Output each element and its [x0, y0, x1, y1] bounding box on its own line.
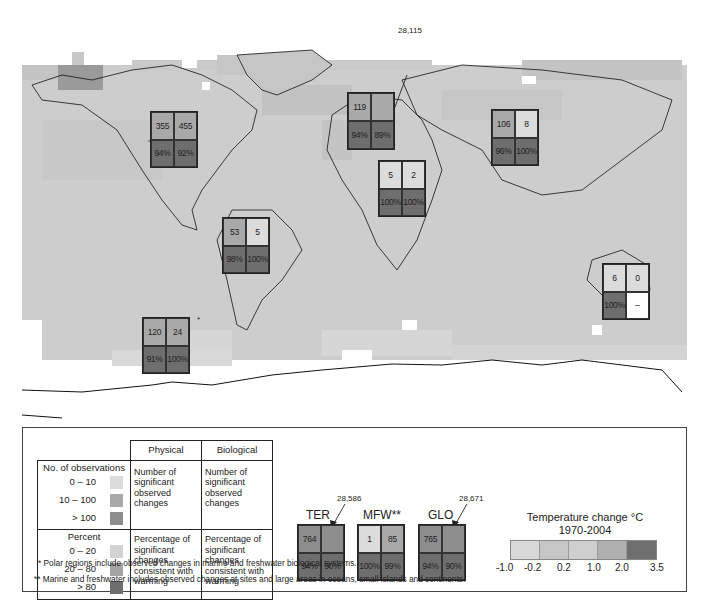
summary-box-glo: 765 94% 90%	[418, 524, 466, 581]
physical-count: 765	[419, 525, 442, 553]
colorbar-bin-4	[627, 541, 656, 559]
tick-4: 2.0	[615, 562, 629, 573]
glo-callout: 28,671	[459, 494, 483, 503]
biological-count	[321, 525, 344, 553]
biological-count	[442, 525, 465, 553]
tick-0: -1.0	[496, 562, 513, 573]
colorbar-bin-2	[569, 541, 598, 559]
physical-count: 764	[298, 525, 321, 553]
footnote-polar: * Polar regions include observed changes…	[38, 558, 357, 568]
biological-count: 85	[381, 525, 404, 553]
tick-2: 0.2	[557, 562, 571, 573]
colorbar-title-line2: 1970-2004	[505, 524, 665, 537]
colorbar	[510, 540, 657, 560]
colorbar-title-line1: Temperature change °C	[505, 511, 665, 524]
colorbar-bin-0	[511, 541, 540, 559]
colorbar-title: Temperature change °C 1970-2004	[505, 511, 665, 537]
tick-3: 1.0	[587, 562, 601, 573]
glo-label: GLO	[428, 508, 453, 522]
colorbar-bin-1	[540, 541, 569, 559]
tick-5: 3.5	[650, 562, 664, 573]
colorbar-bin-3	[598, 541, 627, 559]
footnote-mfw: ** Marine and freshwater includes observ…	[34, 574, 465, 584]
tick-1: -0.2	[524, 562, 541, 573]
physical-count: 1	[358, 525, 381, 553]
ter-callout: 28,586	[337, 494, 361, 503]
ter-label: TER	[306, 508, 330, 522]
summary-box-ter: 764 94% 90%	[297, 524, 345, 581]
mfw-label: MFW**	[363, 508, 401, 522]
summary-box-mfw: 1 85 100% 99%	[357, 524, 405, 581]
